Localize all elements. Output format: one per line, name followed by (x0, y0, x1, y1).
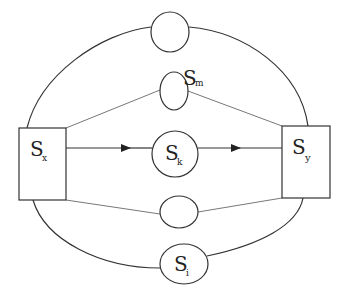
edge-sx-lower (66, 200, 160, 214)
edge-lower-sy (198, 198, 282, 212)
edge-sx-si-arc (33, 200, 160, 268)
node-sk: S k (152, 131, 198, 177)
edge-sx-top-arc (27, 27, 151, 128)
node-sx-sub: x (42, 153, 47, 163)
node-lower (160, 196, 198, 228)
node-sm-sub: m (195, 78, 204, 88)
node-sk-sub: k (177, 157, 183, 167)
node-si-sub: i (186, 268, 189, 278)
edge-si-sy-arc (207, 198, 303, 256)
edge-sm-sy (188, 91, 282, 126)
edge-top-sy-arc (189, 27, 308, 126)
node-sy: S y (282, 126, 330, 198)
edge-sx-sm (66, 90, 160, 128)
node-sy-label: S (292, 135, 306, 159)
node-sm: S m (160, 66, 204, 110)
node-sy-sub: y (304, 152, 311, 163)
node-si: S i (160, 244, 208, 284)
node-top (151, 12, 189, 52)
node-sx: S x (19, 128, 66, 200)
network-diagram: S x S y S m S k S i (0, 0, 347, 299)
